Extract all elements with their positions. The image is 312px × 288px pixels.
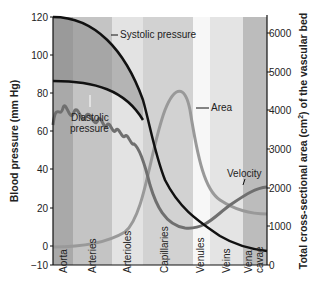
band-label-aorta: Aorta xyxy=(58,249,69,273)
ytick-120: 120 xyxy=(31,12,48,23)
ytick-100: 100 xyxy=(31,50,48,61)
y2tick-5000: 5000 xyxy=(269,67,292,78)
band-label-venules: Venules xyxy=(195,237,206,273)
y2tick-4000: 4000 xyxy=(269,105,292,116)
band-label-capillaries: Capillaries xyxy=(159,226,170,273)
band-label-veins: Veins xyxy=(221,249,232,273)
y2tick-0: 0 xyxy=(269,260,275,271)
label-diastolic-2: pressure xyxy=(70,123,109,134)
y-axis-label: Blood pressure (mm Hg) xyxy=(8,80,20,203)
y2tick-2000: 2000 xyxy=(269,183,292,194)
y2-axis-label: Total cross-sectional area (cm2) of the … xyxy=(297,13,309,269)
y2tick-1000: 1000 xyxy=(269,221,292,232)
band-vena-cavae xyxy=(243,17,267,265)
ytick-0: 0 xyxy=(42,241,48,252)
band-label-arterioles: Arterioles xyxy=(122,231,133,273)
blood-pressure-chart: 120 100 80 60 40 20 0 −10 Blood pressure… xyxy=(0,0,312,288)
band-label-arteries: Arteries xyxy=(87,239,98,273)
label-area: Area xyxy=(211,102,233,113)
ytick-80: 80 xyxy=(37,88,49,99)
band-veins xyxy=(210,17,243,265)
label-systolic: Systolic pressure xyxy=(120,29,197,40)
ytick-60: 60 xyxy=(37,126,49,137)
label-diastolic-1: Diastolic xyxy=(71,112,109,123)
ytick-40: 40 xyxy=(37,164,49,175)
ytick-minus10: −10 xyxy=(31,260,48,271)
y2tick-6000: 6000 xyxy=(269,28,292,39)
right-axis: 6000 5000 4000 3000 2000 1000 0 Total cr… xyxy=(267,13,309,271)
y2tick-3000: 3000 xyxy=(269,144,292,155)
band-label-vena: Vena xyxy=(243,250,254,273)
label-velocity: Velocity xyxy=(227,168,261,179)
ytick-20: 20 xyxy=(37,203,49,214)
band-label-cavae: cavae xyxy=(254,246,265,273)
